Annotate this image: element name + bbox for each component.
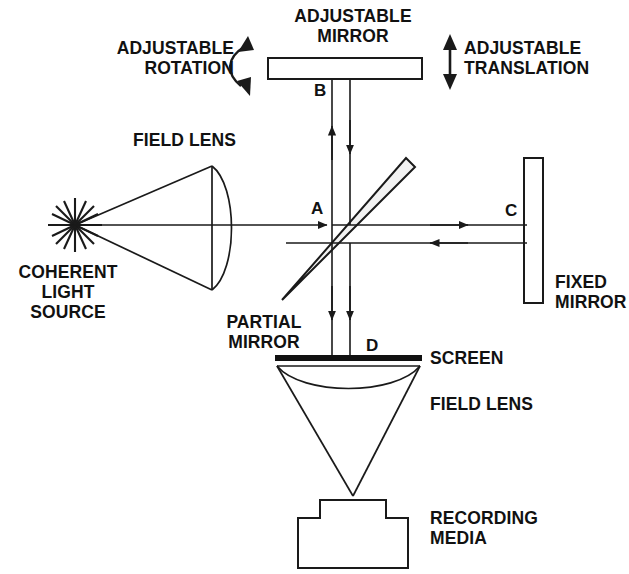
partial-mirror xyxy=(282,158,415,300)
label-partial-mirror: PARTIAL MIRROR xyxy=(214,312,314,352)
adjustable-translation-arrow xyxy=(443,34,457,90)
point-label-c: C xyxy=(505,202,517,220)
label-recording-media: RECORDING MEDIA xyxy=(430,508,560,548)
label-adjustable-rotation: ADJUSTABLE ROTATION xyxy=(92,38,234,78)
recording-media xyxy=(298,500,408,568)
converging-ray-cone xyxy=(277,366,420,496)
label-adjustable-translation: ADJUSTABLE TRANSLATION xyxy=(464,38,624,78)
interferometer-diagram: ADJUSTABLE MIRROR ADJUSTABLE ROTATION AD… xyxy=(0,0,629,574)
field-lens-bottom xyxy=(277,366,420,389)
adjustable-mirror xyxy=(268,58,422,79)
point-label-d: D xyxy=(366,337,378,355)
point-label-a: A xyxy=(311,200,323,218)
label-field-lens-bottom: FIELD LENS xyxy=(430,394,533,414)
label-fixed-mirror: FIXED MIRROR xyxy=(555,272,627,312)
label-field-lens-top: FIELD LENS xyxy=(133,130,236,150)
label-adjustable-mirror: ADJUSTABLE MIRROR xyxy=(278,6,428,46)
screen-bar xyxy=(275,355,422,361)
label-coherent-light-source: COHERENT LIGHT SOURCE xyxy=(8,262,128,322)
point-label-b: B xyxy=(314,82,326,100)
field-lens-top xyxy=(212,166,232,290)
label-screen: SCREEN xyxy=(430,348,504,368)
fixed-mirror xyxy=(524,158,543,303)
